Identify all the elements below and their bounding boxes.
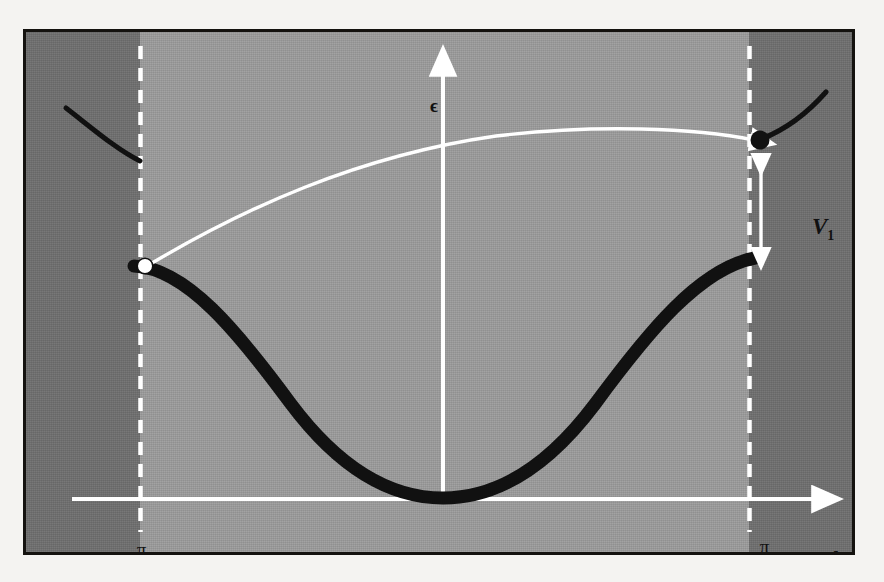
x-tick-left-minus-sign: - (122, 550, 129, 556)
upper-band-fragment-left (66, 108, 140, 161)
x-tick-left-fraction: π a (132, 540, 151, 555)
figure-plate: ϵ k V1 - π a π a (23, 29, 855, 555)
band-gap-label-letter: V (812, 214, 827, 239)
umklapp-transition-arc (147, 129, 754, 266)
x-tick-right-numerator: π (757, 537, 773, 555)
final-state-filled-circle (751, 131, 770, 150)
band-gap-label: V1 (812, 215, 834, 243)
band-gap-label-subscript: 1 (827, 228, 834, 243)
y-axis-label: ϵ (430, 96, 438, 115)
initial-state-open-circle (137, 258, 153, 274)
diagram-overlay (26, 32, 852, 552)
x-axis-label: k (832, 548, 843, 555)
x-tick-left-numerator: π (134, 540, 150, 555)
x-tick-label-left: - π a (122, 540, 151, 555)
x-tick-right-fraction: π a (755, 537, 774, 555)
x-tick-label-right: π a (755, 537, 774, 555)
band-diagram-figure: ϵ k V1 - π a π a (0, 0, 884, 582)
